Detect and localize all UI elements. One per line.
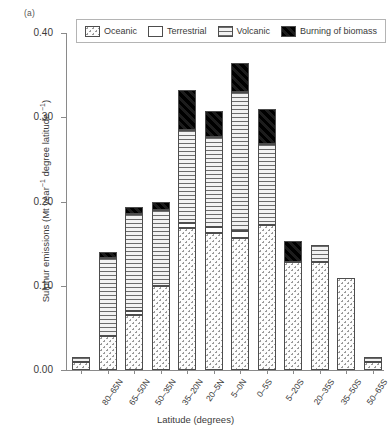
bar-segment-volcanic [364,357,382,361]
x-axis-tick-label: 50–35N [153,377,178,407]
bar-3520N [152,202,170,371]
x-axis-tick [108,370,109,374]
bar-5035N [125,207,143,370]
x-axis-tick-label: 50–65S [365,377,390,407]
bar-8065N [72,357,90,370]
x-axis-tick [293,370,294,374]
bar-520S [258,109,276,370]
bar-segment-oceanic [152,286,170,370]
bar-segment-burning-of-biomass [258,109,276,144]
x-axis-tick-label: 35–50S [338,377,363,407]
bar-segment-volcanic [99,258,117,336]
x-axis-line [66,370,384,371]
bar-segment-terrestrial [125,311,143,315]
bar-segment-oceanic [258,225,276,370]
y-axis-tick: 0.10 [61,286,66,287]
x-axis-tick [240,370,241,374]
y-axis-tick: 0.20 [61,202,66,203]
plot-area: 0.000.100.200.300.40 80–65N65–50N50–35N3… [66,33,384,370]
x-axis-tick [214,370,215,374]
bar-segment-burning-of-biomass [99,252,117,258]
bar-segment-oceanic [99,336,117,370]
y-axis-tick: 0.00 [61,370,66,371]
x-axis-tick-label: 0–5S [255,377,275,399]
y-axis-tick-label: 0.00 [34,364,53,375]
bar-3550S [311,245,329,370]
x-axis-tick-label: 20–5N [204,377,227,403]
bar-segment-oceanic [205,233,223,370]
bar-segment-oceanic [337,278,355,370]
bar-segment-burning-of-biomass [125,207,143,214]
y-axis-tick-label: 0.20 [34,196,53,207]
bar-segment-oceanic [72,362,90,370]
bar-50N [205,111,223,370]
x-axis-tick [320,370,321,374]
y-axis-tick-label: 0.30 [34,111,53,122]
bar-segment-burning-of-biomass [284,241,302,262]
bar-segment-burning-of-biomass [178,90,196,130]
x-axis-tick-label: 5–0N [228,377,248,399]
x-axis-tick [81,370,82,374]
bar-segment-oceanic [311,262,329,370]
bar-segment-volcanic [72,357,90,361]
bar-segment-volcanic [125,214,143,311]
bar-segment-oceanic [231,238,249,370]
y-axis-tick: 0.30 [61,117,66,118]
bar-2035S [284,241,302,370]
x-axis-tick-label: 20–35S [312,377,337,407]
bar-segment-terrestrial [231,231,249,238]
x-axis-tick-label: 65–50N [126,377,151,407]
bar-segment-volcanic [258,144,276,225]
bar-segment-volcanic [311,245,329,262]
y-axis-tick-label: 0.10 [34,280,53,291]
y-axis-tick: 0.40 [61,33,66,34]
x-axis-tick [187,370,188,374]
x-axis-tick [346,370,347,374]
y-axis-line [66,33,67,370]
y-axis-tick-label: 0.40 [34,27,53,38]
x-axis-tick-label: 35–20N [179,377,204,407]
bar-segment-volcanic [205,137,223,227]
x-axis-title: Latitude (degrees) [0,414,391,425]
bar-205N [178,90,196,370]
bar-segment-volcanic [178,130,196,224]
x-axis-tick [373,370,374,374]
bar-6550N [99,252,117,370]
bar-segment-burning-of-biomass [205,111,223,137]
bar-segment-oceanic [364,362,382,370]
bar-6580S [364,357,382,370]
bar-segment-volcanic [231,92,249,231]
bar-05S [231,63,249,371]
panel-label: (a) [24,8,35,18]
x-axis-tick [267,370,268,374]
bar-5065S [337,278,355,370]
bar-segment-oceanic [125,315,143,370]
x-axis-tick-label: 80–65N [100,377,125,407]
x-axis-tick [134,370,135,374]
bar-segment-oceanic [178,228,196,370]
bar-segment-terrestrial [205,227,223,233]
bar-segment-burning-of-biomass [231,63,249,92]
bar-segment-burning-of-biomass [152,202,170,210]
x-axis-tick-label: 5–20S [283,377,305,403]
bar-segment-oceanic [284,262,302,370]
bar-segment-terrestrial [178,223,196,228]
x-axis-tick [161,370,162,374]
bar-segment-volcanic [152,210,170,286]
